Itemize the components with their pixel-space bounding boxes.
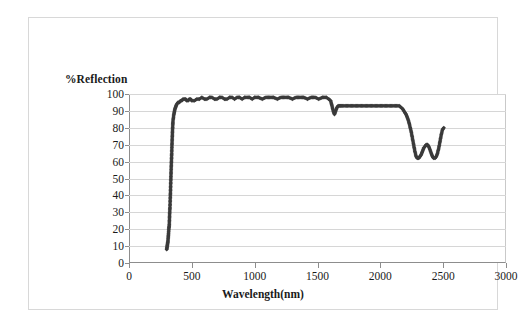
y-tick-label: 90 [113, 105, 125, 117]
y-tick-label: 30 [113, 206, 125, 218]
x-tick-label: 1000 [243, 270, 266, 282]
y-tick-label: 80 [113, 122, 125, 134]
x-tick-mark [318, 263, 319, 268]
x-tick-mark [255, 263, 256, 268]
x-tick-label: 0 [126, 270, 132, 282]
x-tick-label: 500 [183, 270, 200, 282]
y-tick-label: 40 [113, 189, 125, 201]
y-tick-label: 100 [107, 88, 124, 100]
x-tick-label: 2500 [432, 270, 455, 282]
y-tick-label: 20 [113, 223, 125, 235]
y-tick-label: 0 [118, 257, 124, 269]
plot-wrapper: 0102030405060708090100 05001000150020002… [129, 94, 506, 263]
x-tick-mark [192, 263, 193, 268]
y-tick-label: 60 [113, 156, 125, 168]
x-axis-title: Wavelength(nm) [29, 288, 497, 300]
y-tick-label: 10 [113, 240, 125, 252]
x-tick-label: 3000 [495, 270, 518, 282]
chart-container: %Reflection 0102030405060708090100 05001… [28, 17, 498, 310]
x-tick-mark [506, 263, 507, 268]
x-tick-mark [129, 263, 130, 268]
x-tick-mark [443, 263, 444, 268]
x-tick-label: 1500 [306, 270, 329, 282]
data-series-reflection [129, 94, 506, 263]
x-tick-mark [380, 263, 381, 268]
y-tick-label: 70 [113, 139, 125, 151]
x-tick-label: 2000 [369, 270, 392, 282]
y-tick-label: 50 [113, 173, 125, 185]
y-axis-title: %Reflection [65, 73, 127, 85]
